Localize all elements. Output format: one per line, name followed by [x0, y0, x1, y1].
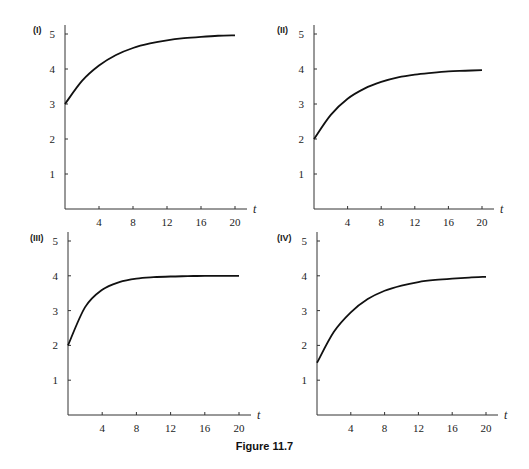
x-axis-label: t	[257, 408, 261, 422]
y-tick-label: 4	[299, 63, 305, 75]
x-tick-label: 8	[134, 422, 140, 434]
panel-label: (I)	[33, 25, 42, 35]
panel-label: (IV)	[277, 233, 292, 243]
y-tick-label: 5	[50, 28, 56, 40]
figure-caption: Figure 11.7	[0, 440, 529, 452]
x-axis-label: t	[504, 408, 508, 422]
x-tick-label: 16	[443, 216, 455, 228]
x-tick-label: 4	[96, 216, 102, 228]
solution-curve	[317, 277, 486, 363]
solution-curve	[65, 35, 235, 104]
y-tick-label: 2	[299, 133, 305, 145]
figure-11-7: 1234548121620t(I) 1234548121620t(II) 123…	[0, 0, 529, 469]
y-tick-label: 1	[50, 168, 56, 180]
solution-curve	[68, 276, 239, 346]
x-tick-label: 20	[230, 216, 242, 228]
panel-label: (III)	[30, 233, 44, 243]
x-tick-label: 12	[162, 216, 173, 228]
x-tick-label: 16	[447, 422, 459, 434]
x-tick-label: 12	[413, 422, 424, 434]
x-tick-label: 16	[196, 216, 208, 228]
panel-label: (II)	[277, 25, 288, 35]
y-tick-label: 4	[302, 270, 308, 282]
y-tick-label: 5	[302, 235, 308, 247]
x-axis-label: t	[253, 202, 257, 216]
panel-iii: 1234548121620t(III)	[30, 232, 261, 434]
solution-curve	[314, 70, 482, 139]
x-tick-label: 4	[99, 422, 105, 434]
x-tick-label: 8	[382, 422, 388, 434]
panel-iv: 1234548121620t(IV)	[277, 232, 508, 434]
y-tick-label: 3	[302, 305, 308, 317]
y-tick-label: 1	[299, 168, 305, 180]
x-tick-label: 12	[165, 422, 176, 434]
x-tick-label: 20	[481, 422, 493, 434]
y-tick-label: 4	[50, 63, 56, 75]
y-tick-label: 5	[299, 28, 305, 40]
y-tick-label: 2	[302, 339, 308, 351]
y-tick-label: 1	[302, 374, 308, 386]
x-tick-label: 4	[348, 422, 354, 434]
x-tick-label: 8	[378, 216, 384, 228]
y-tick-label: 3	[299, 98, 305, 110]
y-tick-label: 2	[50, 133, 56, 145]
panel-ii: 1234548121620t(II)	[277, 25, 504, 228]
x-axis-label: t	[500, 202, 504, 216]
y-tick-label: 3	[50, 98, 56, 110]
x-tick-label: 20	[234, 422, 246, 434]
x-tick-label: 20	[477, 216, 489, 228]
panel-i: 1234548121620t(I)	[33, 25, 257, 228]
x-tick-label: 12	[409, 216, 420, 228]
y-tick-label: 3	[53, 305, 59, 317]
y-tick-label: 4	[53, 270, 59, 282]
y-tick-label: 5	[53, 235, 59, 247]
x-tick-label: 16	[199, 422, 211, 434]
x-tick-label: 4	[345, 216, 351, 228]
x-tick-label: 8	[130, 216, 136, 228]
y-tick-label: 2	[53, 339, 59, 351]
y-tick-label: 1	[53, 374, 59, 386]
